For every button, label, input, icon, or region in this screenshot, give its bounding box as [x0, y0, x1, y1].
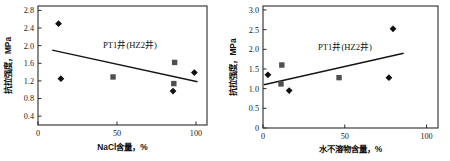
data-point-square — [278, 81, 283, 86]
x-tick-label: 100 — [420, 132, 432, 141]
data-point-square — [172, 60, 177, 65]
x-tick-label: 50 — [341, 132, 349, 141]
data-point-diamond — [286, 87, 293, 94]
data-point-square — [279, 62, 284, 67]
x-axis-title: NaCl含量，% — [97, 142, 148, 152]
y-tick-label: 0.4 — [24, 112, 34, 121]
scatter-plot-insoluble: 00.51.01.52.02.53.0050100PT1井(HZ2井)水不溶物含… — [225, 0, 450, 161]
scatter-plot-nacl: 0.40.81.21.62.02.42.8050100PT1井(HZ2井)NaC… — [0, 0, 225, 161]
x-tick-label: 0 — [261, 132, 265, 141]
data-point-square — [336, 75, 341, 80]
y-tick-label: 0.5 — [249, 104, 259, 113]
x-tick-label: 100 — [190, 129, 202, 138]
figure-container: 0.40.81.21.62.02.42.8050100PT1井(HZ2井)NaC… — [0, 0, 450, 161]
y-tick-label: 2.5 — [249, 26, 259, 35]
y-tick-label: 2.0 — [24, 42, 34, 51]
trend-line — [264, 53, 404, 84]
y-tick-label: 2.0 — [249, 45, 259, 54]
data-point-diamond — [390, 25, 397, 32]
plot-frame — [263, 6, 438, 128]
y-tick-label: 1.6 — [24, 59, 34, 68]
trend-line — [52, 50, 197, 82]
y-tick-label: 1.0 — [249, 85, 259, 94]
series-annotation-label: PT1井(HZ2井) — [318, 41, 372, 52]
chart-panel-left: 0.40.81.21.62.02.42.8050100PT1井(HZ2井)NaC… — [0, 0, 225, 161]
x-tick-label: 0 — [36, 129, 40, 138]
y-tick-label: 0.8 — [24, 94, 34, 103]
y-tick-label: 1.2 — [24, 77, 34, 86]
y-tick-label: 2.4 — [24, 24, 34, 33]
y-axis-title: 抗拉强度，MPa — [3, 37, 13, 95]
data-point-square — [171, 81, 176, 86]
y-tick-label: 0 — [255, 124, 259, 133]
data-point-square — [110, 74, 115, 79]
y-axis-title: 抗拉强度，MPa — [228, 38, 238, 96]
x-tick-label: 50 — [113, 129, 121, 138]
data-point-diamond — [58, 75, 65, 82]
data-point-diamond — [191, 69, 198, 76]
y-tick-label: 1.5 — [249, 65, 259, 74]
x-axis-title: 水不溶物含量，% — [318, 144, 383, 154]
data-point-diamond — [386, 74, 393, 81]
chart-panel-right: 00.51.01.52.02.53.0050100PT1井(HZ2井)水不溶物含… — [225, 0, 450, 161]
y-tick-label: 2.8 — [24, 6, 34, 15]
y-tick-label: 3.0 — [249, 6, 259, 15]
series-annotation-label: PT1井(HZ2井) — [103, 39, 157, 50]
data-point-diamond — [170, 88, 177, 95]
data-point-diamond — [265, 71, 272, 78]
data-point-diamond — [55, 20, 62, 27]
